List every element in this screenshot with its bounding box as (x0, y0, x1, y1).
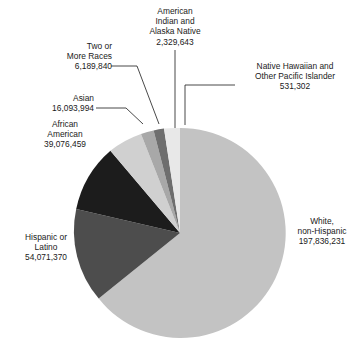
slice-label-american-indian-alaska-native: American Indian and Alaska Native 2,329,… (128, 6, 222, 47)
label-value: 54,071,370 (5, 252, 87, 262)
label-line: Asian (14, 93, 94, 103)
label-line: Native Hawaiian and (232, 61, 358, 71)
slice-label-hispanic-or-latino: Hispanic or Latino 54,071,370 (5, 232, 87, 263)
label-line: Indian and (128, 16, 222, 26)
label-value: 197,836,231 (286, 236, 358, 246)
label-line: Alaska Native (128, 26, 222, 36)
slice-label-two-or-more-races: Two or More Races 6,189,840 (30, 41, 112, 72)
label-value: 6,189,840 (30, 61, 112, 71)
label-value: 16,093,994 (14, 103, 94, 113)
label-line: Other Pacific Islander (232, 71, 358, 81)
slice-label-african-american: African American 39,076,459 (24, 119, 106, 150)
leader-line-two-or-more-races (111, 66, 159, 124)
label-line: non-Hispanic (286, 226, 358, 236)
label-line: American (24, 129, 106, 139)
label-line: Hispanic or (5, 232, 87, 242)
label-line: American (128, 6, 222, 16)
label-value: 39,076,459 (24, 139, 106, 149)
slice-label-native-hawaiian-pacific-islander: Native Hawaiian and Other Pacific Island… (232, 61, 358, 92)
label-line: More Races (30, 51, 112, 61)
label-line: White, (286, 216, 358, 226)
slice-label-white-non-hispanic: White, non-Hispanic 197,836,231 (286, 216, 358, 247)
label-value: 2,329,643 (128, 37, 222, 47)
label-line: African (24, 119, 106, 129)
slice-label-asian: Asian 16,093,994 (14, 93, 94, 113)
leader-line-native-hawaiian-pacific-islander (185, 85, 235, 125)
pie-chart-figure: American Indian and Alaska Native 2,329,… (0, 0, 363, 353)
label-line: Latino (5, 242, 87, 252)
label-value: 531,302 (232, 81, 358, 91)
label-line: Two or (30, 41, 112, 51)
